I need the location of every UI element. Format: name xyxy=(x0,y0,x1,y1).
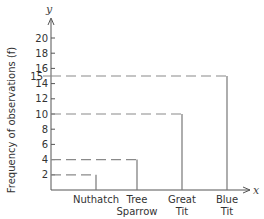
y-tick-label: 4 xyxy=(42,154,48,165)
bars xyxy=(51,76,227,190)
category-label: Tit xyxy=(220,206,234,217)
y-axis-title: Frequency of observations (f) xyxy=(6,47,17,194)
y-tick-label: 10 xyxy=(35,109,48,120)
category-label: Sparrow xyxy=(117,206,158,217)
y-tick-label: 8 xyxy=(42,124,48,135)
category-label: Great xyxy=(168,194,196,205)
y-tick-label: 20 xyxy=(35,33,48,44)
y-tick-label: 6 xyxy=(42,139,48,150)
y-tick-label: 2 xyxy=(42,169,48,180)
category-label: Tree xyxy=(126,194,148,205)
x-axis-letter: x xyxy=(253,184,260,197)
category-label: Blue xyxy=(216,194,238,205)
frequency-chart: Frequency of observations (f) yx 2468101… xyxy=(0,0,264,219)
axes: yx xyxy=(45,3,260,197)
y-axis-label: Frequency of observations (f) xyxy=(6,47,17,194)
y-tick-label: 12 xyxy=(35,93,48,104)
category-label: Nuthatch xyxy=(73,194,119,205)
x-category-labels: NuthatchTreeSparrowGreatTitBlueTit xyxy=(73,194,238,217)
chart: Frequency of observations (f) yx 2468101… xyxy=(0,0,264,219)
y-tick-label: 18 xyxy=(35,48,48,59)
category-label: Tit xyxy=(175,206,189,217)
y-axis-letter: y xyxy=(45,3,53,16)
y-extra-tick-label: 15 xyxy=(30,71,43,82)
